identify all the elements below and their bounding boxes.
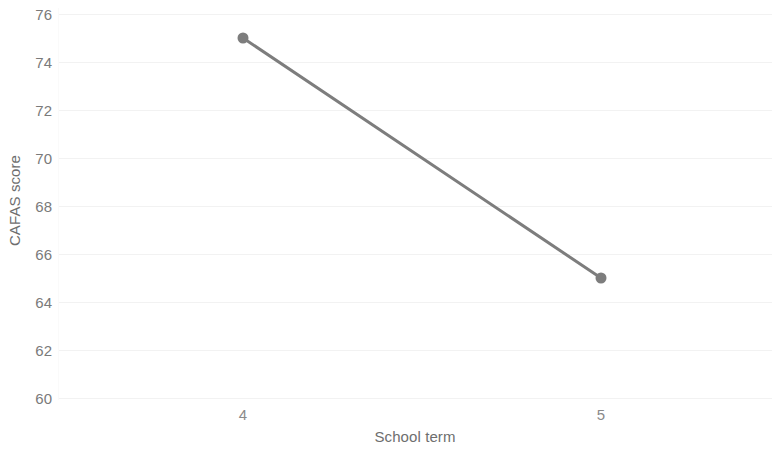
data-point-marker: [238, 33, 249, 44]
series-line-cafas-score: [243, 38, 601, 278]
data-point-marker: [596, 273, 607, 284]
line-chart: CAFAS score 606264666870727476 45 School…: [0, 0, 772, 460]
y-axis-tick-label: 64: [8, 295, 52, 310]
y-axis-tick-label: 70: [8, 151, 52, 166]
plot-area: [58, 0, 772, 400]
y-axis-tick-label: 68: [8, 199, 52, 214]
y-axis-tick-label: 60: [8, 391, 52, 406]
x-axis-tick-label: 5: [581, 407, 621, 422]
y-axis-tick-labels: 606264666870727476: [0, 0, 52, 460]
y-axis-tick-label: 62: [8, 343, 52, 358]
y-axis-tick-label: 72: [8, 103, 52, 118]
x-axis-title: School term: [58, 428, 772, 445]
y-axis-tick-label: 76: [8, 7, 52, 22]
y-axis-line: [58, 8, 59, 400]
x-axis-tick-label: 4: [223, 407, 263, 422]
series-layer: [58, 0, 772, 400]
y-axis-tick-label: 66: [8, 247, 52, 262]
y-axis-tick-label: 74: [8, 55, 52, 70]
